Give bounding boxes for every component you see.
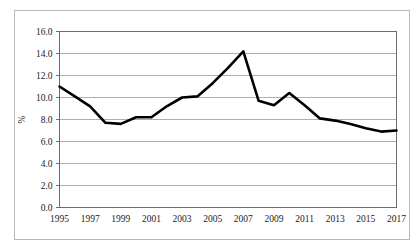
x-tick-label: 2017 — [387, 214, 406, 224]
y-tick-label: 6.0 — [41, 137, 53, 147]
chart-y-axis-title: % — [17, 115, 27, 123]
line-chart: 0.02.04.06.08.010.012.014.016.0 19951997… — [0, 0, 416, 250]
y-tick-label: 4.0 — [41, 159, 53, 169]
x-tick-label: 2011 — [295, 214, 314, 224]
y-tick-label: 16.0 — [36, 27, 53, 37]
chart-x-tick-labels: 1995199719992001200320052007200920112013… — [50, 214, 406, 224]
y-tick-label: 8.0 — [41, 115, 53, 125]
chart-y-axis-ticks — [56, 32, 60, 208]
x-tick-label: 2009 — [264, 214, 283, 224]
x-tick-label: 1999 — [111, 214, 130, 224]
chart-gridlines — [60, 54, 397, 186]
y-tick-label: 2.0 — [41, 181, 53, 191]
x-tick-label: 1997 — [81, 214, 100, 224]
x-tick-label: 2007 — [234, 214, 253, 224]
y-tick-label: 12.0 — [36, 71, 53, 81]
figure-root: 0.02.04.06.08.010.012.014.016.0 19951997… — [0, 0, 416, 250]
x-tick-label: 1995 — [50, 214, 69, 224]
x-tick-label: 2015 — [356, 214, 375, 224]
chart-y-tick-labels: 0.02.04.06.08.010.012.014.016.0 — [36, 27, 53, 213]
y-tick-label: 14.0 — [36, 49, 53, 59]
x-tick-label: 2003 — [173, 214, 192, 224]
x-tick-label: 2001 — [142, 214, 161, 224]
x-tick-label: 2005 — [203, 214, 222, 224]
y-tick-label: 10.0 — [36, 93, 53, 103]
x-tick-label: 2013 — [326, 214, 345, 224]
y-axis-title-label: % — [17, 115, 27, 123]
y-tick-label: 0.0 — [41, 203, 53, 213]
